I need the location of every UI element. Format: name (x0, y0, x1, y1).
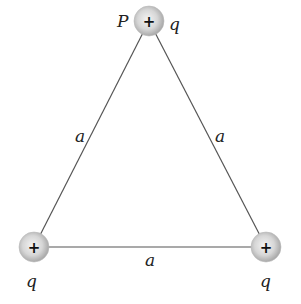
side-label-left: a (75, 126, 85, 146)
charge-bottom-left: + (19, 232, 49, 262)
side-label-right: a (215, 126, 225, 146)
plus-sign: + (260, 239, 273, 257)
point-label-p: P (116, 11, 129, 31)
charge-label-bottom-right: q (260, 271, 271, 291)
side-label-bottom: a (145, 250, 155, 270)
plus-sign: + (28, 239, 41, 257)
charge-bottom-right: + (251, 232, 281, 262)
charge-label-top: q (169, 14, 180, 34)
triangle-sides (34, 21, 266, 247)
charge-top: + (134, 6, 164, 36)
side-right (149, 21, 266, 247)
charge-label-bottom-left: q (26, 271, 37, 291)
plus-sign: + (143, 13, 156, 31)
side-left (34, 21, 149, 247)
triangle-diagram: + + + P q q q a a a (0, 0, 301, 304)
